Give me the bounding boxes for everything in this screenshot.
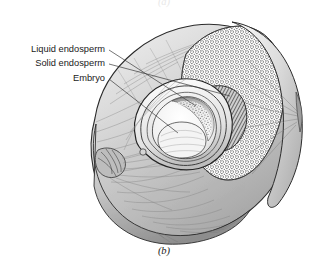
label-solid-endosperm: Solid endosperm: [35, 58, 105, 68]
label-liquid-endosperm: Liquid endosperm: [31, 44, 105, 54]
label-embryo: Embryo: [73, 73, 105, 83]
figure-coconut-seed-structure: Liquid endosperm Solid endosperm Embryo …: [0, 0, 328, 266]
figure-caption: (b): [158, 245, 171, 257]
caption-above-partial: (a): [158, 0, 171, 8]
micropyle-pore: [140, 149, 146, 155]
coconut-diagram-svg: Liquid endosperm Solid endosperm Embryo …: [0, 0, 328, 266]
